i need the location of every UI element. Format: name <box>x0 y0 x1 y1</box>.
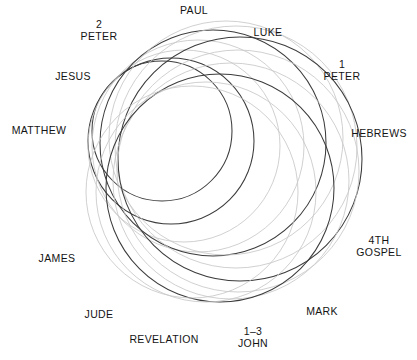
label-line: JOHN <box>238 337 268 349</box>
label-revelation: REVELATION <box>129 334 198 346</box>
label-line: PETER <box>81 30 118 42</box>
label-line: JAMES <box>39 253 76 265</box>
label-2-peter: 2PETER <box>81 19 118 42</box>
label-1-peter: 1PETER <box>324 59 361 82</box>
label-line: PAUL <box>180 5 208 17</box>
label-line: JESUS <box>55 71 91 83</box>
circle-12 <box>96 82 316 302</box>
label-line: 1 <box>324 59 361 71</box>
label-line: 2 <box>81 19 118 31</box>
circles-canvas <box>0 0 417 360</box>
label-line: 4TH <box>356 235 401 247</box>
circle-11 <box>106 74 334 302</box>
label-4th-gospel: 4THGOSPEL <box>356 235 401 258</box>
label-mark: MARK <box>306 306 338 318</box>
circles-group <box>86 21 362 302</box>
label-line: GOSPEL <box>356 246 401 258</box>
label-line: HEBREWS <box>351 128 407 140</box>
label-line: LUKE <box>254 27 283 39</box>
spiral-circle-diagram: PAUL2PETERLUKEJESUS1PETERMATTHEWHEBREWS4… <box>0 0 417 360</box>
label-james: JAMES <box>39 253 76 265</box>
label-line: PETER <box>324 70 361 82</box>
label-1-3-john: 1–3JOHN <box>238 326 268 349</box>
label-matthew: MATTHEW <box>12 125 67 137</box>
label-jesus: JESUS <box>55 71 91 83</box>
label-line: MATTHEW <box>12 125 67 137</box>
label-line: REVELATION <box>129 334 198 346</box>
label-line: 1–3 <box>238 326 268 338</box>
label-line: JUDE <box>85 309 114 321</box>
label-luke: LUKE <box>254 27 283 39</box>
label-hebrews: HEBREWS <box>351 128 407 140</box>
circle-13 <box>86 86 298 298</box>
label-paul: PAUL <box>180 5 208 17</box>
label-jude: JUDE <box>85 309 114 321</box>
label-line: MARK <box>306 306 338 318</box>
